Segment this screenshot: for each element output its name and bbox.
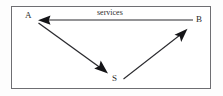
edge-label-services: services bbox=[97, 9, 123, 17]
figure-root: A B S services bbox=[0, 0, 223, 96]
node-label-b: B bbox=[196, 15, 202, 24]
edge-s-to-b-arrowhead bbox=[175, 29, 188, 42]
edge-a-to-s-arrowhead bbox=[94, 60, 108, 73]
edge-s-to-b-line bbox=[124, 35, 181, 79]
node-label-a: A bbox=[25, 11, 32, 20]
edge-a-to-s-line bbox=[39, 23, 101, 68]
edge-s-to-b bbox=[124, 29, 188, 79]
node-label-s: S bbox=[112, 74, 117, 83]
edge-a-to-s bbox=[39, 23, 109, 74]
